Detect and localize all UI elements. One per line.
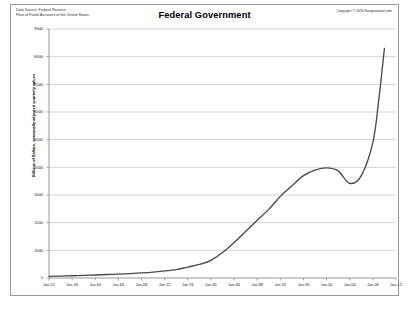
- x-tick-label: Jan-52: [43, 283, 55, 287]
- x-tick-label: Jan-88: [251, 283, 263, 287]
- x-tick-label: Jan-08: [367, 283, 379, 287]
- x-tick-label: Jan-60: [89, 283, 101, 287]
- plot-area-wrapper: Billions of Dollars, seasonally adjusted…: [11, 5, 400, 297]
- x-tick-label: Jan-00: [321, 283, 333, 287]
- x-tick-label: Jan-92: [275, 283, 287, 287]
- x-axis-tick-labels: Jan-52Jan-56Jan-60Jan-64Jan-68Jan-72Jan-…: [11, 5, 400, 297]
- x-tick-label: Jan-64: [113, 283, 125, 287]
- x-tick-label: Jan-68: [136, 283, 148, 287]
- x-tick-label: Jan-56: [66, 283, 78, 287]
- x-tick-label: Jan-80: [205, 283, 217, 287]
- x-tick-label: Jan-76: [182, 283, 194, 287]
- x-tick-label: Jan-12: [390, 283, 402, 287]
- x-tick-label: Jan-96: [298, 283, 310, 287]
- x-tick-label: Jan-72: [159, 283, 171, 287]
- x-tick-label: Jan-84: [228, 283, 240, 287]
- chart-card: Data Source: Federal Reserve Flow of Fun…: [10, 4, 399, 296]
- x-tick-label: Jan-04: [344, 283, 356, 287]
